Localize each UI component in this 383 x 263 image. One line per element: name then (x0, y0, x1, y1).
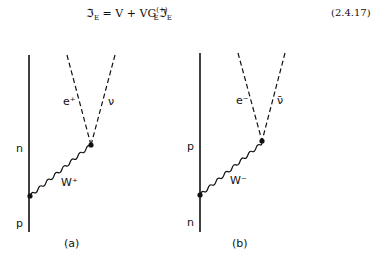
boson-label: W⁺ (61, 176, 78, 189)
lepton-left-label: e⁺ (63, 95, 76, 108)
upper-nucleon-label: n (16, 142, 23, 155)
vertex-dot (88, 142, 93, 147)
w-boson-wavy-line (200, 142, 262, 195)
boson-label: W⁻ (230, 174, 247, 187)
vertex-dot (197, 192, 202, 197)
caption-b: (b) (232, 237, 248, 250)
lepton-left-label: e⁻ (236, 94, 249, 107)
caption-a: (a) (64, 237, 79, 250)
diagram-b: p n W⁻ e⁻ ν̄ (b) (187, 53, 285, 250)
lower-nucleon-label: n (187, 216, 194, 229)
lower-nucleon-label: p (16, 217, 23, 230)
feynman-diagrams: n p W⁺ e⁺ ν (a) p n W⁻ e⁻ ν̄ (b) (0, 0, 383, 263)
vertex-dot (259, 138, 264, 143)
diagram-a: n p W⁺ e⁺ ν (a) (16, 55, 115, 250)
vertex-dot (27, 193, 32, 198)
lepton-right-label: ν̄ (277, 94, 283, 107)
lepton-right-label: ν (108, 95, 114, 108)
upper-nucleon-label: p (187, 140, 194, 153)
